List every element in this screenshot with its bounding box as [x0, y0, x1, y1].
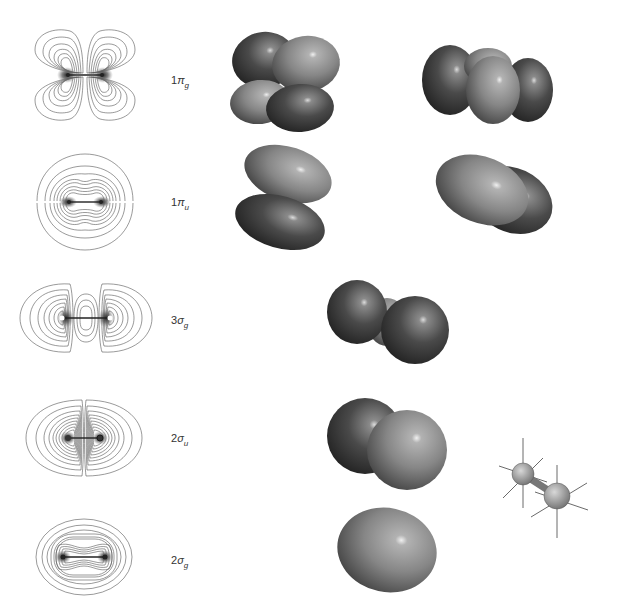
orbital-label-3sigma-g: 3σg	[171, 314, 188, 330]
isosurface-3sigma-g	[323, 270, 453, 370]
orbital-label-2sigma-u: 2σu	[171, 432, 188, 448]
orbital-label-1pi-u: 1πu	[171, 196, 189, 212]
orbital-label-2sigma-g: 2σg	[171, 554, 188, 570]
isosurface-1pi-u-view-1	[230, 142, 340, 257]
orbital-row-1pi-g: 1πg	[0, 0, 620, 130]
orbital-row-1pi-u: 1πu	[0, 130, 620, 260]
isosurface-1pi-g-view-2	[420, 38, 560, 128]
contour-plot-2sigma-u	[24, 398, 144, 478]
isosurface-2sigma-g	[336, 506, 440, 596]
contour-plot-3sigma-g	[18, 280, 154, 356]
orbital-row-3sigma-g: 3σg	[0, 260, 620, 380]
orbital-label-1pi-g: 1πg	[171, 74, 189, 90]
isosurface-1pi-u-view-2	[430, 145, 560, 245]
isosurface-2sigma-u	[325, 392, 455, 492]
contour-plot-1pi-u	[35, 152, 135, 252]
contour-plot-1pi-g	[25, 25, 145, 125]
orbital-row-2sigma-g: 2σg	[0, 490, 620, 611]
contour-plot-2sigma-g	[35, 518, 133, 596]
isosurface-1pi-g-view-1	[228, 20, 348, 130]
orbital-row-2sigma-u: 2σu	[0, 380, 620, 490]
